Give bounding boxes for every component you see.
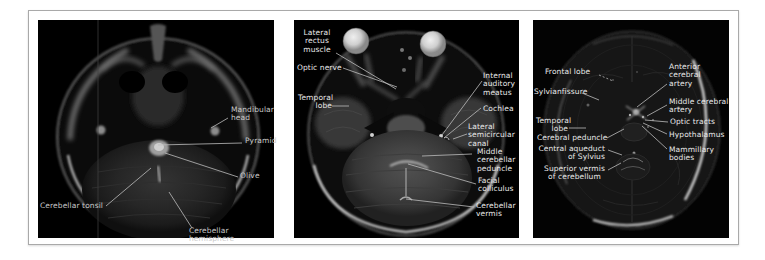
label-lateral-semicircular-canal: Lateral semicircular canal: [468, 123, 515, 148]
label-middle-cerebellar-peduncle: Middle cerebellar peduncle: [477, 148, 516, 173]
label-anterior-cerebral-artery: Anterior cerebral artery: [669, 63, 701, 88]
label-cerebral-peduncle: Cerebral peduncle: [537, 134, 607, 142]
atlas-frame: Mandibular head Pyramid Olive Cerebellar…: [28, 10, 739, 245]
label-optic-nerve: Optic nerve: [297, 64, 342, 72]
label-frontal-lobe: Frontal lobe: [545, 68, 590, 76]
label-facial-colliculus: Facial colliculus: [478, 177, 514, 194]
atlas-page: Mandibular head Pyramid Olive Cerebellar…: [0, 0, 765, 260]
label-optic-tracts: Optic tracts: [670, 118, 715, 126]
label-central-aqueduct-of-sylvius: Central aqueduct of Sylvius: [536, 145, 605, 162]
label-mandibular-head: Mandibular head: [231, 106, 274, 123]
label-mammillary-bodies: Mammillary bodies: [669, 146, 714, 163]
mri-panel-pons: Lateral rectus muscle Optic nerve Tempor…: [294, 20, 519, 238]
mri-panel-midbrain: Frontal lobe Sylvianfissure Temporal lob…: [533, 20, 729, 238]
label-temporal-lobe: Temporal lobe: [298, 94, 332, 111]
mri-panel-medulla: Mandibular head Pyramid Olive Cerebellar…: [38, 20, 274, 238]
label-olive: Olive: [240, 172, 260, 180]
label-sylvian-fissure: Sylvianfissure: [534, 88, 587, 96]
label-cerebellar-tonsil: Cerebellar tonsil: [40, 202, 103, 210]
label-hypothalamus: Hypothalamus: [669, 131, 725, 139]
label-internal-auditory-meatus: Internal auditory meatus: [483, 72, 515, 97]
label-cochlea: Cochlea: [483, 105, 514, 113]
label-cerebellar-vermis: Cerebellar vermis: [476, 202, 516, 219]
label-cerebellar-hemisphere: Cerebellar hemisphere: [189, 227, 274, 244]
label-superior-vermis-of-cerebellum: Superior vermis of cerebellum: [544, 165, 605, 182]
label-lateral-rectus-muscle: Lateral rectus muscle: [302, 29, 332, 54]
label-middle-cerebral-artery: Middle cerebral artery: [669, 98, 728, 115]
label-pyramid: Pyramid: [245, 137, 277, 145]
label-temporal-lobe: Temporal lobe: [536, 117, 568, 134]
